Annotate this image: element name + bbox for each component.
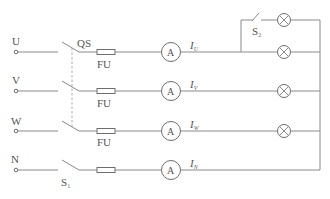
current-label-v: IV (189, 78, 199, 91)
line-label-v: V (12, 74, 20, 86)
ammeter-u: A (162, 43, 181, 62)
s1-label: S1 (61, 176, 70, 189)
line-label-w: W (11, 115, 22, 127)
fuse-u (97, 50, 115, 55)
current-label-n: IN (189, 157, 199, 170)
circuit-diagram: U V W N QS S1 FU FU FU A A A (0, 0, 330, 199)
switch-blade-v (62, 81, 79, 91)
terminal-u (14, 50, 18, 54)
lamp-v (278, 85, 291, 98)
lamp-s2 (278, 14, 291, 27)
fuse-w (97, 129, 115, 134)
ammeter-w: A (162, 122, 181, 141)
qs-label: QS (77, 37, 91, 49)
svg-text:A: A (167, 165, 175, 176)
fuse-label-w: FU (97, 136, 111, 148)
fuse-n (97, 168, 115, 173)
s2-label: S2 (252, 25, 261, 38)
terminal-w (14, 129, 18, 133)
ammeter-v: A (162, 82, 181, 101)
svg-text:A: A (167, 126, 175, 137)
lamp-u (278, 46, 291, 59)
current-label-w: IW (189, 118, 200, 131)
ammeter-n: A (162, 161, 181, 180)
current-label-u: IU (189, 39, 199, 52)
lamp-w (278, 125, 291, 138)
fuse-v (97, 89, 115, 94)
switch-blade-w (62, 121, 79, 131)
svg-text:A: A (167, 47, 175, 58)
svg-text:A: A (167, 86, 175, 97)
switch-blade-n (62, 160, 79, 170)
line-label-n: N (11, 153, 19, 165)
line-label-u: U (12, 35, 20, 47)
terminal-n (14, 168, 18, 172)
terminal-v (14, 89, 18, 93)
fuse-label-v: FU (97, 97, 111, 109)
s2-blade (252, 13, 259, 21)
fuse-label-u: FU (97, 58, 111, 70)
